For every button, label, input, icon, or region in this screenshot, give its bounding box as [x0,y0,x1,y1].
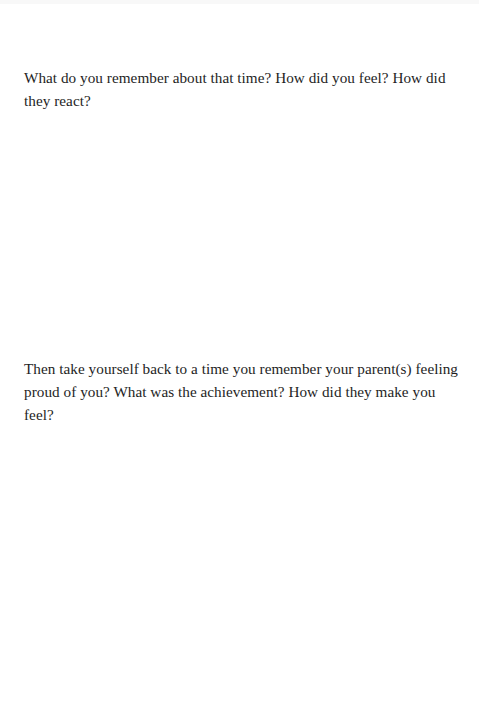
journal-prompt-parents-proud: Then take yourself back to a time you re… [24,357,464,426]
page-top-edge [0,0,479,4]
journal-prompt-memory: What do you remember about that time? Ho… [24,66,464,112]
